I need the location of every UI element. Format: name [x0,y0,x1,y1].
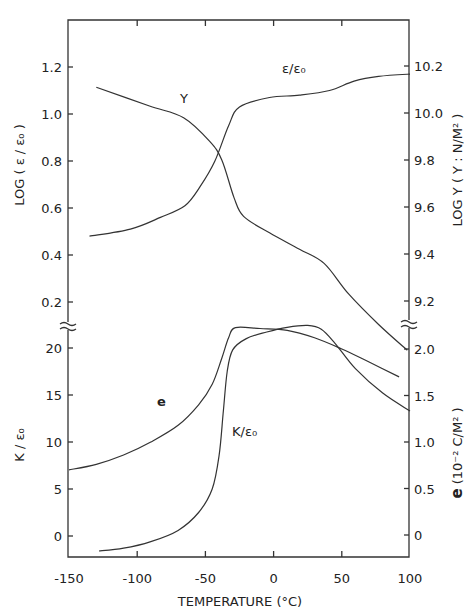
y-tick-label: 0.2 [41,295,62,310]
y-tick-label: 15 [45,388,62,403]
x-tick-label: -50 [195,571,216,586]
y-tick-label: 1.0 [41,107,62,122]
y-tick-label: 0.8 [41,154,62,169]
y-tick-label: 5 [54,482,62,497]
upper-right-axis-title: LOG Y ( Y : N/M² ) [450,114,465,227]
y-tick-label-right: 0 [414,528,422,543]
curve-label-K: K/ε₀ [232,424,257,439]
y-tick-label-right: 9.4 [414,247,435,262]
upper-left-axis-title: LOG ( ε / ε₀ ) [12,124,27,206]
y-tick-label-right: 10.2 [414,59,443,74]
plot-frame [68,20,409,557]
left-axis-break [60,322,76,331]
y-tick-label: 0.6 [41,201,62,216]
chart-canvas: -150-100-500501000.20.40.60.81.01.29.29.… [0,0,475,613]
y-tick-label-right: 9.8 [414,153,435,168]
lower-left-axis-title: K / ε₀ [12,428,27,461]
y-tick-label: 1.2 [41,60,62,75]
y-tick-label-right: 10.0 [414,106,443,121]
lower-right-axis-title: e (10⁻² C/M² ) [448,407,466,498]
y-tick-label-right: 2.0 [414,342,435,357]
lower-right-title-units: (10⁻² C/M² ) [450,407,465,488]
curves [69,74,410,551]
curve-Y [96,87,407,350]
curve-label-e: e [157,394,166,409]
x-tick-label: 50 [334,571,351,586]
y-tick-label: 0.4 [41,248,62,263]
y-tick-label-right: 0.5 [414,482,435,497]
y-tick-label-right: 9.6 [414,200,435,215]
x-axis-title: TEMPERATURE (°C) [177,594,302,609]
x-tick-label: 100 [398,571,423,586]
y-tick-label-right: 1.0 [414,435,435,450]
x-tick-label: -150 [54,571,84,586]
lower-right-title-e: e [448,488,466,498]
y-tick-label: 10 [45,435,62,450]
x-tick-label: 0 [269,571,277,586]
y-tick-label-right: 1.5 [414,389,435,404]
right-axis-break [401,320,417,329]
curve-label-Y: Y [179,91,188,106]
curve-label-eps: ε/ε₀ [282,61,306,76]
y-tick-label: 20 [45,341,62,356]
x-tick-label: -100 [122,571,152,586]
y-tick-label-right: 9.2 [414,294,435,309]
curve-ε/ε₀ [90,74,411,236]
y-tick-label: 0 [54,529,62,544]
